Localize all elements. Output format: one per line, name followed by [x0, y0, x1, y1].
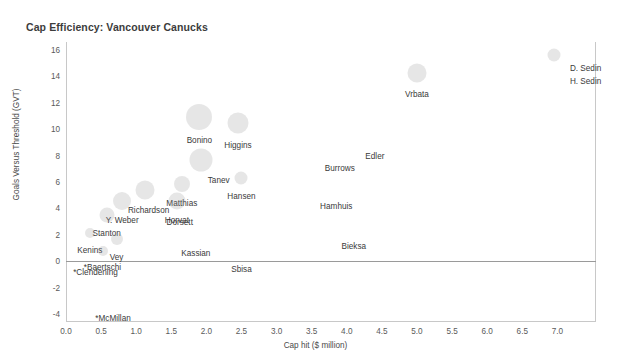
- zero-reference-line: [66, 261, 596, 262]
- data-point-label: Bonino: [187, 137, 213, 145]
- x-tick-label: 0.0: [60, 327, 71, 336]
- data-point-bubble: [113, 192, 131, 210]
- x-tick-label: 1.0: [130, 327, 141, 336]
- data-point-bubble: [135, 180, 154, 199]
- data-point-bubble: [547, 48, 560, 61]
- data-point-label: Vey: [110, 254, 124, 262]
- x-tick-label: 4.5: [376, 327, 387, 336]
- data-point-bubble: [168, 193, 185, 210]
- data-point-bubble: [189, 148, 212, 171]
- x-tick-label: 4.0: [341, 327, 352, 336]
- x-tick-label: 3.0: [271, 327, 282, 336]
- data-point-label: Bieksa: [342, 243, 367, 251]
- y-tick-label: 14: [51, 72, 60, 81]
- data-point-bubble: [99, 208, 114, 223]
- data-point-label: Richardson: [128, 207, 169, 215]
- data-point-bubble: [407, 64, 426, 83]
- data-point-bubble: [235, 172, 248, 185]
- data-point-label: Hamhuis: [320, 203, 352, 211]
- data-point-bubble: [227, 113, 248, 134]
- x-axis-label: Cap hit ($ million): [0, 341, 631, 350]
- y-tick-label: 2: [55, 230, 60, 239]
- y-tick-label: 8: [55, 151, 60, 160]
- x-axis-tick-labels: 0.00.51.01.52.02.53.03.54.04.55.05.56.06…: [66, 327, 596, 341]
- y-tick-label: 10: [51, 125, 60, 134]
- chart-title: Cap Efficiency: Vancouver Canucks: [26, 21, 208, 33]
- data-point-label: *Clendening: [73, 269, 118, 277]
- data-point-label: Dorsett: [167, 219, 193, 227]
- y-tick-label: 0: [55, 257, 60, 266]
- data-point-label: D. Sedin: [570, 65, 601, 73]
- x-tick-label: 3.5: [306, 327, 317, 336]
- chart-container: Cap Efficiency: Vancouver Canucks Goals …: [0, 0, 631, 364]
- x-tick-label: 6.5: [517, 327, 528, 336]
- y-axis-label: Goals Versus Threshold (GVT): [12, 65, 21, 225]
- data-point-bubble: [111, 233, 123, 245]
- data-point-bubble: [98, 246, 108, 256]
- x-tick-label: 2.5: [236, 327, 247, 336]
- plot-area: D. SedinH. SedinVrbataBoninoHigginsEdler…: [66, 42, 596, 322]
- data-point-label: Kassian: [181, 250, 210, 258]
- x-tick-label: 0.5: [95, 327, 106, 336]
- data-point-label: Burrows: [325, 165, 355, 173]
- data-point-bubble: [174, 176, 190, 192]
- y-tick-label: -2: [53, 283, 60, 292]
- x-tick-label: 2.0: [201, 327, 212, 336]
- data-point-label: Higgins: [224, 142, 251, 150]
- data-point-label: *McMillan: [95, 315, 131, 323]
- y-tick-label: -4: [53, 310, 60, 319]
- data-point-label: Edler: [365, 153, 384, 161]
- data-point-bubble: [85, 228, 95, 238]
- data-point-label: Tanev: [208, 177, 230, 185]
- y-axis-tick-labels: 1614121086420-2-4: [38, 42, 60, 322]
- y-tick-label: 6: [55, 178, 60, 187]
- data-point-label: Vrbata: [405, 91, 429, 99]
- y-tick-label: 12: [51, 98, 60, 107]
- y-tick-label: 16: [51, 45, 60, 54]
- y-tick-label: 4: [55, 204, 60, 213]
- x-tick-label: 7.0: [552, 327, 563, 336]
- data-point-label: H. Sedin: [570, 78, 601, 86]
- data-point-bubble: [186, 104, 212, 130]
- data-point-label: Hansen: [227, 193, 255, 201]
- x-tick-label: 6.0: [481, 327, 492, 336]
- data-point-label: Sbisa: [231, 266, 251, 274]
- x-tick-label: 5.0: [411, 327, 422, 336]
- x-tick-label: 1.5: [166, 327, 177, 336]
- x-tick-label: 5.5: [446, 327, 457, 336]
